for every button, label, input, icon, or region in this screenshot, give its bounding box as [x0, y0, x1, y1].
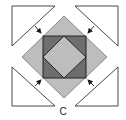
- arrow-icon: [35, 26, 41, 33]
- arrow-icon: [88, 80, 94, 86]
- figure-label: C: [0, 106, 126, 117]
- arrow-icon: [88, 26, 94, 33]
- quilt-block-diagram: [0, 0, 126, 120]
- arrow-icon: [35, 80, 41, 86]
